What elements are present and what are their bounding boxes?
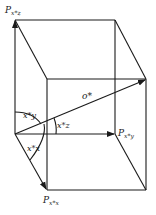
label-angle-x: x*x — [27, 144, 41, 153]
arrow-resultant-vector — [15, 80, 145, 134]
edge-top-right — [115, 20, 146, 79]
label-vector: o* — [82, 91, 92, 101]
label-angle-z: x*z — [57, 121, 71, 130]
edge-top-left — [15, 20, 47, 79]
label-right-point: Px*y — [117, 128, 134, 140]
edge-bottom-right — [115, 134, 146, 190]
box-diagram: Px*z Px*y Px*x o* x*y x*z x*x — [0, 0, 156, 215]
label-angle-y: x*y — [23, 111, 37, 120]
label-bottom-point: Px*x — [42, 195, 59, 206]
label-top-point: Px*z — [4, 5, 21, 16]
angle-arc-z — [54, 118, 56, 134]
angle-arc-x — [30, 124, 44, 160]
